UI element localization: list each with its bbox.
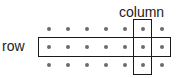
grid-dot [123, 45, 127, 49]
grid-dot [47, 27, 51, 31]
grid-dot [104, 63, 108, 67]
grid-dot [104, 45, 108, 49]
grid-dot [141, 27, 145, 31]
grid-dot [66, 63, 70, 67]
grid-dot [160, 27, 164, 31]
grid-dot [66, 27, 70, 31]
grid-dot [104, 27, 108, 31]
grid-dot [85, 27, 89, 31]
grid-dot [85, 63, 89, 67]
grid-dot [47, 63, 51, 67]
column-label: column [119, 5, 164, 19]
grid-dot [160, 45, 164, 49]
grid-dot [47, 45, 51, 49]
grid-dot [123, 27, 127, 31]
grid-dot [160, 63, 164, 67]
grid-dot [123, 63, 127, 67]
grid-dot [85, 45, 89, 49]
row-column-diagram: row column [0, 0, 179, 78]
grid-dot [141, 45, 145, 49]
row-label: row [2, 39, 25, 53]
grid-dot [141, 63, 145, 67]
grid-dot [66, 45, 70, 49]
